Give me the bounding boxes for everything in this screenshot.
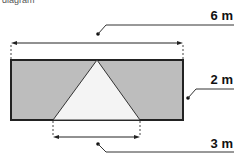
height-label: 2 m [211, 72, 233, 87]
arrowhead-base-left [53, 135, 59, 139]
base-label: 3 m [211, 136, 233, 151]
leader-line-width [98, 25, 234, 34]
width-label: 6 m [211, 8, 233, 23]
geometry-diagram: diagram 6 m 2 m 3 m [0, 0, 239, 159]
header-fragment: diagram [2, 0, 35, 5]
arrowhead-right [177, 41, 183, 45]
leader-line-height [188, 89, 234, 98]
arrowhead-left [11, 41, 17, 45]
arrowhead-base-right [134, 135, 140, 139]
